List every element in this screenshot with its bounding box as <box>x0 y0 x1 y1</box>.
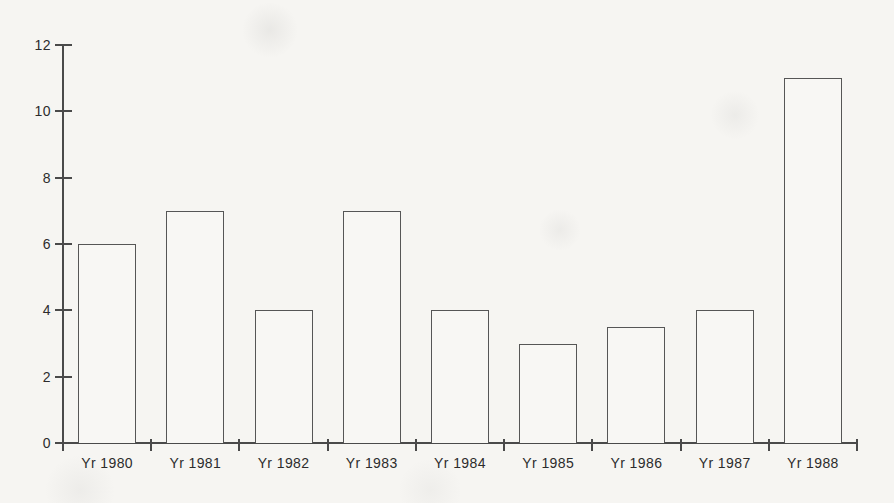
x-tick <box>327 439 329 451</box>
x-tick <box>238 439 240 451</box>
x-tick <box>591 439 593 451</box>
bar-yr-1988 <box>784 78 842 443</box>
y-tick <box>55 243 72 245</box>
x-tick <box>62 439 64 451</box>
x-category-label: Yr 1982 <box>258 455 310 471</box>
y-tick-label: 2 <box>43 369 51 385</box>
bar-yr-1981 <box>166 211 224 443</box>
bar-yr-1983 <box>343 211 401 443</box>
bar-yr-1987 <box>696 310 754 443</box>
bar-yr-1984 <box>431 310 489 443</box>
y-tick-label: 6 <box>43 236 51 252</box>
bar-chart: 024681012 Yr 1980Yr 1981Yr 1982Yr 1983Yr… <box>0 0 894 503</box>
y-tick <box>55 44 72 46</box>
x-category-label: Yr 1984 <box>434 455 486 471</box>
bar-yr-1985 <box>519 344 577 444</box>
y-tick-label: 12 <box>34 37 51 53</box>
x-category-label: Yr 1988 <box>787 455 839 471</box>
y-tick-label: 10 <box>34 103 51 119</box>
bar-yr-1980 <box>78 244 136 443</box>
y-tick <box>55 376 72 378</box>
x-tick <box>503 439 505 451</box>
x-category-label: Yr 1986 <box>611 455 663 471</box>
y-tick <box>55 110 72 112</box>
x-tick <box>856 439 858 451</box>
bar-yr-1986 <box>607 327 665 443</box>
x-tick <box>768 439 770 451</box>
x-category-label: Yr 1985 <box>522 455 574 471</box>
bar-yr-1982 <box>255 310 313 443</box>
x-tick <box>415 439 417 451</box>
x-category-label: Yr 1980 <box>81 455 133 471</box>
x-category-label: Yr 1981 <box>169 455 221 471</box>
y-tick-label: 8 <box>43 170 51 186</box>
y-tick-label: 4 <box>43 302 51 318</box>
x-tick <box>680 439 682 451</box>
y-tick <box>55 177 72 179</box>
x-category-label: Yr 1983 <box>346 455 398 471</box>
y-tick-label: 0 <box>43 435 51 451</box>
x-tick <box>150 439 152 451</box>
plot-area: 024681012 Yr 1980Yr 1981Yr 1982Yr 1983Yr… <box>63 45 857 443</box>
x-category-label: Yr 1987 <box>699 455 751 471</box>
y-tick <box>55 309 72 311</box>
